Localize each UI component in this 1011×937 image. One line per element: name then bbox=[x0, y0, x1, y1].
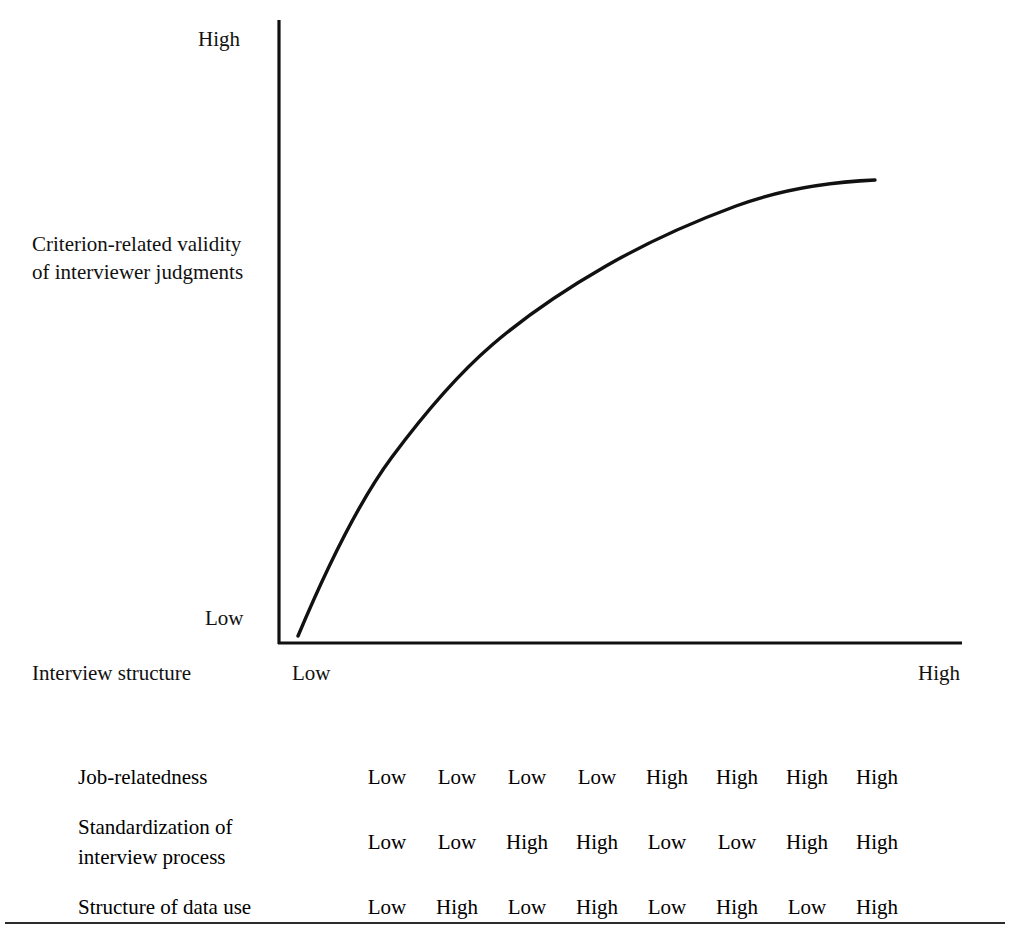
x-axis-high-label: High bbox=[918, 660, 960, 686]
table-cell: Low bbox=[422, 806, 492, 878]
table-cell: High bbox=[492, 806, 562, 878]
table-cell: High bbox=[422, 878, 492, 936]
row-cells: Low High Low High Low High Low High bbox=[352, 878, 912, 936]
y-axis-low-label: Low bbox=[205, 605, 244, 631]
table-cell: Low bbox=[352, 748, 422, 806]
table-cell: Low bbox=[632, 806, 702, 878]
bottom-divider bbox=[5, 922, 1005, 924]
table-cell: High bbox=[772, 806, 842, 878]
table-cell: Low bbox=[702, 806, 772, 878]
row-label-job-relatedness: Job-relatedness bbox=[78, 764, 348, 791]
table-row: Standardization of interview process Low… bbox=[0, 806, 1011, 878]
y-axis-title: Criterion-related validity of interviewe… bbox=[32, 230, 262, 286]
figure-page: High Low Criterion-related validity of i… bbox=[0, 0, 1011, 937]
row-cells: Low Low High High Low Low High High bbox=[352, 806, 912, 878]
condition-matrix: Job-relatedness Low Low Low Low High Hig… bbox=[0, 748, 1011, 936]
table-cell: Low bbox=[492, 878, 562, 936]
table-cell: High bbox=[702, 878, 772, 936]
table-cell: High bbox=[842, 806, 912, 878]
table-cell: High bbox=[702, 748, 772, 806]
table-cell: Low bbox=[772, 878, 842, 936]
table-row: Job-relatedness Low Low Low Low High Hig… bbox=[0, 748, 1011, 806]
x-axis-title: Interview structure bbox=[32, 660, 191, 686]
table-cell: Low bbox=[352, 806, 422, 878]
table-row: Structure of data use Low High Low High … bbox=[0, 878, 1011, 936]
row-label-structure-of-data-use: Structure of data use bbox=[78, 894, 348, 921]
table-cell: High bbox=[772, 748, 842, 806]
table-cell: High bbox=[562, 878, 632, 936]
table-cell: High bbox=[842, 878, 912, 936]
table-cell: Low bbox=[352, 878, 422, 936]
table-cell: Low bbox=[562, 748, 632, 806]
table-cell: High bbox=[562, 806, 632, 878]
row-label-standardization: Standardization of interview process bbox=[78, 812, 348, 872]
table-cell: High bbox=[842, 748, 912, 806]
row-cells: Low Low Low Low High High High High bbox=[352, 748, 912, 806]
table-cell: Low bbox=[632, 878, 702, 936]
y-axis-high-label: High bbox=[198, 26, 240, 52]
table-cell: Low bbox=[492, 748, 562, 806]
x-axis-low-label: Low bbox=[292, 660, 331, 686]
table-cell: Low bbox=[422, 748, 492, 806]
validity-curve bbox=[298, 180, 875, 636]
table-cell: High bbox=[632, 748, 702, 806]
